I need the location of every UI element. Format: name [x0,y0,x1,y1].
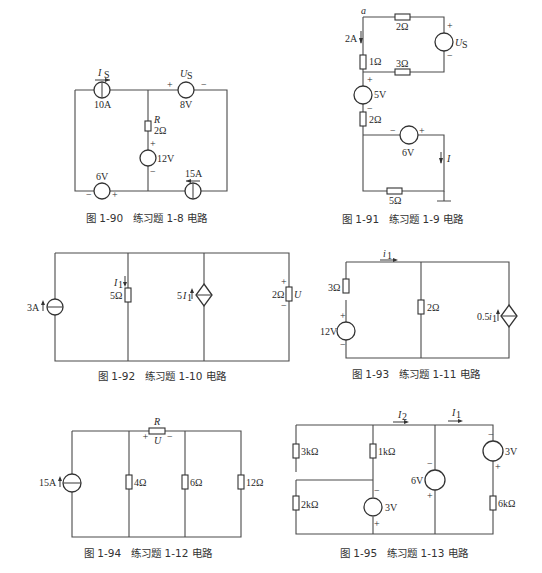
resistor-icon [125,288,131,302]
resistor-icon [182,475,188,489]
label-8v: 8V [180,99,193,110]
label-dep-sub: 1 [492,313,497,324]
figure-caption: 图 1-90 练习题 1-8 电路 [86,212,208,224]
voltage-source-icon [435,33,453,51]
resistor-icon [387,188,402,194]
arrowhead-icon [123,282,127,287]
label-i: I [446,153,451,164]
label-is: I [97,67,102,78]
label-6v-plus: + [427,490,433,501]
label-6v-plus: + [112,189,118,200]
label-us-minus: − [447,50,453,61]
label-dep-coef: 0.5 [477,311,490,322]
label-r-value: 2Ω [154,125,166,136]
figure-caption: 图 1-94 练习题 1-12 电路 [84,547,213,559]
label-r6k: 6kΩ [498,498,515,509]
voltage-source-icon [337,322,355,340]
label-us-plus: + [167,79,173,90]
figure-1-93: i 1 3Ω + 12V − 2Ω 0.5 i 1 图 1-93 练习题 1-1… [320,248,517,380]
wire [363,17,444,191]
resistor-icon [126,475,132,489]
figure-1-95: I 2 I 1 3kΩ 2kΩ 1kΩ − 3V + − 6V + − 3V +… [293,407,518,559]
label-12v: 12V [157,153,175,164]
label-6v-minus: − [86,189,92,200]
arrowhead-icon [41,300,45,305]
figure-1-90: I S 10A U S + − 8V R 2Ω + 12V − 6V − + 1… [75,67,227,224]
label-r3: 3Ω [396,58,408,69]
label-6v: 6V [402,147,415,158]
label-u: U [294,289,302,300]
resistor-icon [370,444,376,458]
wire [72,431,241,537]
voltage-source-icon [364,498,382,516]
figure-1-92: 3A I 1 5Ω 5 I 1 2Ω U + − 图 1-92 练习题 1-10… [27,253,302,382]
label-6v: 6V [411,475,424,486]
resistor-icon [238,475,244,489]
arrowhead-icon [439,158,443,164]
label-u-minus: − [167,431,173,442]
resistor-icon [293,496,299,510]
label-5v-plus: + [367,74,373,85]
figure-caption: 图 1-93 练习题 1-11 电路 [352,368,481,380]
label-12v-minus: − [340,339,346,350]
label-us-minus: − [201,79,207,90]
voltage-source-icon [94,183,110,199]
label-2a: 2A [345,33,358,44]
label-r3: 3Ω [328,282,340,293]
label-r2k: 2kΩ [301,499,318,510]
label-3v-a: 3V [385,502,398,513]
label-dep-sub: 1 [187,292,192,303]
label-us-plus: + [447,20,453,31]
label-12v: 12V [320,326,338,337]
wire [296,425,493,534]
label-r1k: 1kΩ [378,446,395,457]
resistor-icon [293,444,299,458]
label-u-plus: + [142,431,149,442]
label-is-sub: S [104,69,110,80]
label-15a: 15A [185,168,203,179]
label-us-sub: S [187,70,193,81]
voltage-source-icon [483,441,503,461]
label-5v-minus: − [367,103,373,114]
label-r: R [153,114,160,125]
label-10a: 10A [94,99,112,110]
label-r-top: 2Ω [396,21,408,32]
figure-1-94: 15A R U + − 4Ω 6Ω 12Ω 图 1-94 练习题 1-12 电路 [39,416,263,559]
voltage-source-icon [425,470,445,490]
label-r12: 12Ω [246,477,263,488]
wire [55,253,289,361]
resistor-icon [286,287,292,301]
label-12v-minus: − [150,166,156,177]
label-6v-plus: + [419,125,425,136]
circuit-figures-canvas: I S 10A U S + − 8V R 2Ω + 12V − 6V − + 1… [0,0,542,573]
label-5v: 5V [374,89,387,100]
label-3v-b-plus: + [495,461,501,472]
label-3v-a-minus: − [374,485,380,496]
label-r5: 5Ω [389,195,401,206]
voltage-source-icon [140,150,156,166]
label-3v-b: 3V [505,446,518,457]
label-12v-plus: + [150,138,156,149]
label-r4: 4Ω [134,477,146,488]
label-3v-a-plus: + [374,518,380,529]
ground-icon [437,191,451,201]
arrowhead-icon [186,179,191,183]
voltage-source-icon [354,86,372,104]
resistor-icon [343,279,349,293]
label-r2: 2Ω [369,114,381,125]
resistor-icon [149,428,165,434]
label-r3k: 3kΩ [301,446,318,457]
label-i1-sub: 1 [118,279,123,290]
label-6v: 6V [96,171,109,182]
voltage-source-icon [178,82,194,98]
label-6v-minus: − [427,458,433,469]
label-dep-coef: 5 [177,290,182,301]
arrowhead-icon [359,38,363,44]
label-us-sub: S [462,39,468,50]
label-3v-b-minus: − [488,429,494,440]
arrowhead-icon [58,476,62,481]
label-i1-sub: 1 [387,250,392,261]
resistor-icon [490,496,496,510]
figure-caption: 图 1-91 练习题 1-9 电路 [342,213,464,225]
label-12v-plus: + [340,310,346,321]
